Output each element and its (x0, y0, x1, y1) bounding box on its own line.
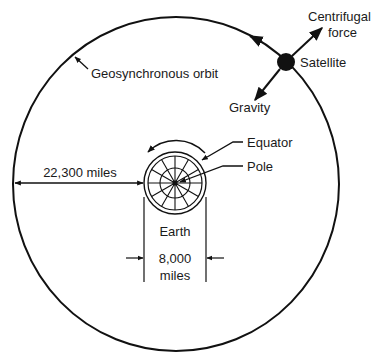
equator-leader-arrow-icon (202, 142, 243, 160)
earth-label: Earth (159, 224, 190, 239)
orbit-distance-label: 22,300 miles (43, 165, 117, 180)
centrifugal-force-arrow-icon (292, 28, 322, 56)
pole-label: Pole (247, 159, 273, 174)
orbit-direction-arrow-icon (250, 36, 262, 42)
orbit-label: Geosynchronous orbit (91, 66, 219, 81)
earth-diameter-unit: miles (160, 268, 191, 283)
gravity-arrow-icon (255, 69, 280, 100)
orbit-leader-arrow-icon (75, 57, 88, 69)
earth-globe (144, 152, 206, 214)
centrifugal-label-line1: Centrifugal (308, 9, 371, 24)
gravity-label: Gravity (229, 100, 271, 115)
earth-diameter-value: 8,000 (159, 251, 192, 266)
earth-rotation-arrow-icon (148, 141, 205, 153)
geosynchronous-orbit-diagram: Geosynchronous orbit Centrifugal force S… (0, 0, 386, 358)
centrifugal-label-line2: force (328, 25, 357, 40)
satellite-label: Satellite (300, 55, 346, 70)
equator-label: Equator (247, 135, 293, 150)
